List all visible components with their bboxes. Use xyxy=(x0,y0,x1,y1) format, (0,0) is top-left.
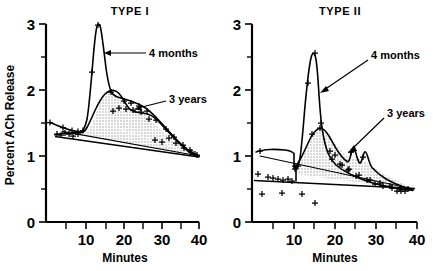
data-points-scattered-low xyxy=(255,171,318,206)
y-tick-label-1: 1 xyxy=(27,148,35,165)
y-tick-label-0: 0 xyxy=(233,214,241,231)
y-tick-label-0: 0 xyxy=(27,214,35,231)
figure-ach-release: Percent ACh Release TYPE I 0 1 2 3 xyxy=(0,0,440,271)
annotation-4-months: 4 months xyxy=(320,49,420,93)
chart-type-i: Percent ACh Release TYPE I 0 1 2 3 xyxy=(0,0,220,271)
x-tick-label-30: 30 xyxy=(154,231,171,248)
annotation-4-months-label: 4 months xyxy=(371,49,420,61)
y-tick-label-2: 2 xyxy=(27,82,35,99)
annotation-3-years-label: 3 years xyxy=(387,107,425,119)
y-tick-label-1: 1 xyxy=(233,148,241,165)
y-axis-title: Percent ACh Release xyxy=(3,65,17,186)
y-tick-label-3: 3 xyxy=(233,16,241,33)
x-axis-title: Minutes xyxy=(312,251,358,265)
x-tick-label-20: 20 xyxy=(116,231,133,248)
y-tick-label-2: 2 xyxy=(233,82,241,99)
panel-type-ii: TYPE II 0 1 2 3 xyxy=(220,0,440,271)
y-tick-label-3: 3 xyxy=(27,16,35,33)
panel-title-type-i: TYPE I xyxy=(111,5,149,17)
panel-title-type-ii: TYPE II xyxy=(319,5,361,17)
panel-type-i: Percent ACh Release TYPE I 0 1 2 3 xyxy=(0,0,220,271)
x-axis-title: Minutes xyxy=(102,251,148,265)
annotation-3-years-label: 3 years xyxy=(169,93,207,105)
x-tick-label-40: 40 xyxy=(191,231,208,248)
x-tick-label-20: 20 xyxy=(327,231,344,248)
x-tick-label-10: 10 xyxy=(78,231,95,248)
annotation-4-months-label: 4 months xyxy=(149,47,198,59)
annotation-3-years: 3 years xyxy=(348,107,425,153)
annotation-4-months: 4 months xyxy=(104,47,198,59)
shaded-area-3-years xyxy=(296,129,413,190)
x-tick-label-10: 10 xyxy=(286,231,303,248)
x-tick-label-40: 40 xyxy=(409,231,426,248)
chart-type-ii: TYPE II 0 1 2 3 xyxy=(220,0,440,271)
x-tick-label-30: 30 xyxy=(368,231,385,248)
